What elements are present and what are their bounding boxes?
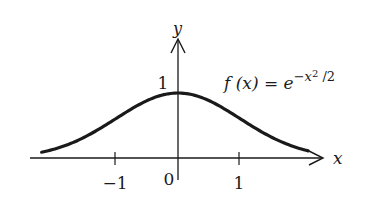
gaussian-chart: −1 0 1 1 x y f (x) = e−x2 /2 <box>0 0 377 202</box>
x-axis-label: x <box>333 148 343 168</box>
y-tick-label-1: 1 <box>158 73 169 93</box>
x-tick-label-0: 0 <box>164 169 175 189</box>
function-label-lhs: f (x) = e <box>222 73 294 93</box>
y-axis-label: y <box>172 19 183 38</box>
function-label-exp-tail: /2 <box>318 69 335 84</box>
function-label-exp: −x <box>294 69 313 84</box>
function-label: f (x) = e−x2 /2 <box>222 68 335 93</box>
x-tick-label-neg1: −1 <box>102 173 127 193</box>
gaussian-curve <box>42 93 309 152</box>
x-tick-label-1: 1 <box>234 173 245 193</box>
